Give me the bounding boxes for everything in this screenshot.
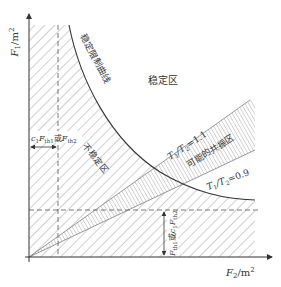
- ratio-lower-label: T1/T2=0.9: [205, 167, 251, 193]
- stability-diagram: F1/m2 F2/m2 稳定区 稳定限制曲线 不稳定区 可能的共振区 T1/T2…: [0, 0, 281, 287]
- h-dim-or: 或: [54, 133, 62, 143]
- x-axis-label: F2/m2: [225, 266, 255, 280]
- x-label-unit: /m: [237, 267, 250, 278]
- h-dim-f1-sub: th1: [45, 138, 54, 144]
- svg-text:T1/T2=0.9: T1/T2=0.9: [205, 167, 251, 193]
- v-dim-f2-sub: th2: [172, 210, 178, 219]
- svg-text:F2/m2: F2/m2: [225, 266, 255, 280]
- v-dim-f1-sub: th1: [172, 241, 178, 250]
- y-label-unit: /m: [9, 32, 20, 45]
- stable-region-label: 稳定区: [148, 74, 178, 86]
- ratio-lower-value: =0.9: [227, 167, 251, 184]
- v-dim-or: 或: [167, 233, 177, 241]
- x-label-sup: 2: [250, 266, 254, 274]
- svg-text:F1/m2: F1/m2: [8, 28, 22, 58]
- y-label-sup: 2: [8, 28, 16, 32]
- y-axis-label: F1/m2: [8, 28, 22, 58]
- h-dim-f2-sub: th2: [67, 138, 76, 144]
